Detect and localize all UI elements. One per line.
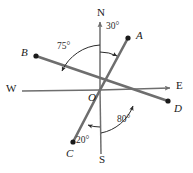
- compass-label-south: S: [99, 154, 105, 165]
- compass-axes: [22, 22, 170, 154]
- angle-label-soc: 20°: [76, 136, 89, 146]
- point-label-A: A: [136, 30, 143, 41]
- point-dot-A: [125, 35, 130, 40]
- point-dot-C: [70, 139, 75, 144]
- point-label-D: D: [174, 103, 182, 114]
- angle-label-noa: 30°: [106, 22, 119, 32]
- arc-angle-noa: [100, 52, 117, 56]
- compass-bearing-figure: N S E W O A B C D 30° 75° 20° 80°: [0, 0, 193, 173]
- ray-BOD: [36, 56, 168, 101]
- axis-south: [100, 90, 101, 154]
- angle-label-nob: 75°: [57, 42, 70, 52]
- point-label-C: C: [66, 148, 73, 159]
- angle-label-sod: 80°: [117, 115, 130, 125]
- compass-label-west: W: [6, 83, 16, 94]
- compass-label-east: E: [176, 80, 183, 91]
- figure-canvas: [0, 0, 193, 173]
- arc-angle-soc: [88, 125, 100, 127]
- origin-label: O: [88, 92, 96, 103]
- point-dot-D: [165, 98, 170, 103]
- point-label-B: B: [21, 47, 28, 58]
- point-dot-B: [33, 53, 38, 58]
- compass-label-north: N: [97, 7, 105, 18]
